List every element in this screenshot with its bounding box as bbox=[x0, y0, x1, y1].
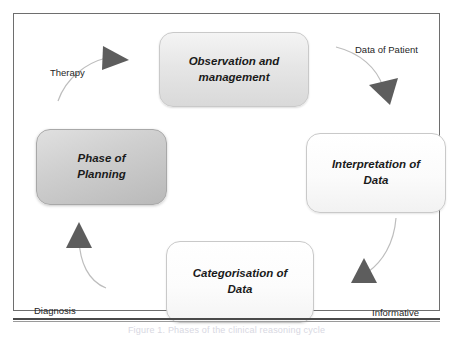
caption-rule bbox=[13, 318, 440, 320]
edge-label-diagnosis: Diagnosis bbox=[34, 305, 76, 316]
node-interpretation-of-data: Interpretation of Data bbox=[306, 133, 446, 213]
node-interpretation-line-1: Interpretation of bbox=[332, 157, 420, 173]
node-categorisation-of-data: Categorisation of Data bbox=[166, 241, 314, 323]
arrowhead-diagnosis bbox=[66, 222, 92, 248]
edge-path-therapy bbox=[58, 58, 106, 101]
edge-label-therapy: Therapy bbox=[50, 67, 85, 78]
arrowhead-data-of-patient bbox=[369, 78, 398, 105]
node-categorisation-line-1: Categorisation of bbox=[193, 266, 288, 282]
figure-frame: Therapy Data of Patient Informative Diag… bbox=[13, 13, 440, 311]
edge-label-data-of-patient: Data of Patient bbox=[355, 44, 418, 55]
node-observation-line-1: Observation and bbox=[189, 54, 280, 70]
node-phase-of-planning: Phase of Planning bbox=[36, 129, 167, 205]
arrowhead-informative bbox=[351, 258, 377, 283]
node-observation-and-management: Observation and management bbox=[159, 32, 309, 107]
node-categorisation-line-2: Data bbox=[193, 282, 288, 298]
arrowhead-therapy bbox=[102, 46, 129, 70]
figure-canvas: Therapy Data of Patient Informative Diag… bbox=[0, 0, 452, 337]
edge-label-informative: Informative bbox=[372, 307, 419, 318]
edge-path-informative bbox=[368, 218, 396, 272]
figure-caption: Figure 1. Phases of the clinical reasoni… bbox=[13, 325, 440, 337]
node-planning-line-1: Phase of bbox=[77, 151, 126, 167]
node-planning-line-2: Planning bbox=[77, 167, 126, 183]
node-observation-line-2: management bbox=[189, 70, 280, 86]
node-interpretation-line-2: Data bbox=[332, 173, 420, 189]
caption-rule-secondary bbox=[13, 321, 440, 322]
edge-path-diagnosis bbox=[79, 240, 106, 288]
